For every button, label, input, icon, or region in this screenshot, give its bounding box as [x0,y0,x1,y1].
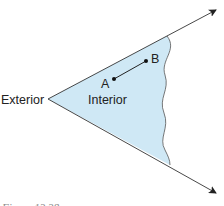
label-interior: Interior [88,93,127,107]
figure-caption: Figure 13.38 [1,201,60,206]
point-a [112,77,116,81]
label-b: B [151,52,159,66]
point-b [144,59,148,63]
angle-diagram: A B Interior Exterior Figure 13.38 [0,0,224,206]
label-a: A [101,77,110,91]
label-exterior: Exterior [1,93,44,107]
